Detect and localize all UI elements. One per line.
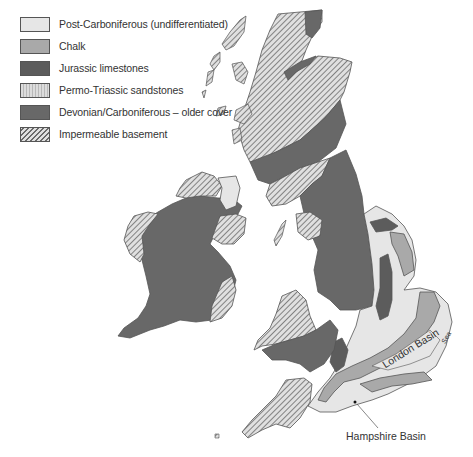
- swatch-devonian: [20, 105, 50, 120]
- swatch-chalk: [20, 39, 50, 54]
- devon-cornwall-basement: [242, 378, 312, 438]
- hampshire-basin-label: Hampshire Basin: [346, 430, 426, 442]
- swatch-post-carboniferous: [20, 17, 50, 32]
- swatch-basement: [20, 127, 50, 142]
- legend-label: Impermeable basement: [59, 128, 167, 140]
- legend-label: Jurassic limestones: [59, 62, 149, 74]
- legend-label: Permo-Triassic sandstones: [59, 84, 183, 96]
- legend-item-post-carboniferous: Post-Carboniferous (undifferentiated): [20, 13, 232, 35]
- legend-item-permo-triassic: Permo-Triassic sandstones: [20, 79, 232, 101]
- legend-label: Chalk: [59, 40, 85, 52]
- caithness-devonian: [305, 10, 322, 38]
- legend-item-jurassic: Jurassic limestones: [20, 57, 232, 79]
- scilly: [215, 434, 219, 438]
- legend-label: Post-Carboniferous (undifferentiated): [59, 18, 228, 30]
- isle-of-man: [274, 220, 286, 246]
- swatch-jurassic: [20, 61, 50, 76]
- legend-item-chalk: Chalk: [20, 35, 232, 57]
- legend-item-devonian: Devonian/Carboniferous – older cover: [20, 101, 232, 123]
- swatch-permo-triassic: [20, 83, 50, 98]
- legend-label: Devonian/Carboniferous – older cover: [59, 106, 232, 118]
- legend: Post-Carboniferous (undifferentiated) Ch…: [20, 13, 232, 145]
- legend-item-basement: Impermeable basement: [20, 123, 232, 145]
- ireland-north-basement: [176, 172, 222, 198]
